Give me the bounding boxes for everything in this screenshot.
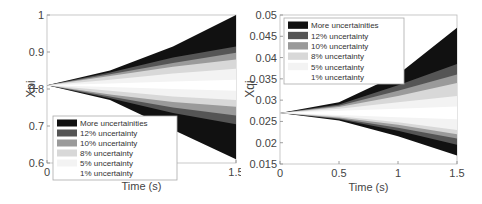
legend-label: 12% uncertainty [311, 32, 368, 41]
legend-swatch [57, 130, 77, 137]
legend-swatch [57, 150, 77, 157]
x-tick-label: 0 [277, 167, 283, 179]
legend-swatch [288, 32, 308, 39]
legend-swatch [288, 73, 308, 80]
legend-label: 8% uncertainty [311, 52, 364, 61]
legend-label: 12% uncertainty [80, 129, 137, 138]
x-tick-label: 0 [44, 166, 50, 178]
y-tick-label: 0.05 [256, 9, 277, 21]
legend-label: 10% uncertainty [80, 139, 137, 148]
legend-swatch [288, 63, 308, 70]
y-tick-label: 0.03 [256, 94, 277, 106]
legend-swatch [288, 42, 308, 49]
legend-swatch [57, 160, 77, 167]
y-tick-label: 0.7 [29, 120, 44, 132]
right-chart: 00.511.50.0150.020.0250.030.0350.040.045… [241, 0, 482, 204]
legend-label: 8% uncertainty [80, 149, 133, 158]
left-chart: 011.50.60.70.80.91Time (s)XpiMore uncert… [0, 0, 241, 204]
x-tick-label: 1 [395, 167, 401, 179]
legend-swatch [288, 53, 308, 60]
x-tick-label: 0.5 [331, 167, 346, 179]
x-axis-label: Time (s) [122, 180, 162, 192]
x-axis-label: Time (s) [349, 181, 389, 193]
legend-label: 5% uncertainty [311, 63, 364, 72]
y-tick-label: 0.02 [256, 137, 277, 149]
y-tick-label: 0.6 [29, 157, 44, 169]
y-tick-label: 0.045 [249, 30, 277, 42]
y-tick-label: 0.015 [249, 158, 277, 170]
legend-label: 1% uncertainty [80, 169, 133, 178]
x-tick-label: 1.5 [449, 167, 464, 179]
legend-label: 5% uncertainty [80, 159, 133, 168]
y-tick-label: 0.025 [249, 115, 277, 127]
y-tick-label: 0.04 [256, 52, 277, 64]
legend-swatch [57, 140, 77, 147]
legend-swatch [288, 22, 308, 29]
legend-label: More uncertainities [311, 21, 379, 30]
x-tick-label: 1.5 [228, 166, 241, 178]
y-axis-label: Xqi [243, 80, 257, 97]
y-tick-label: 1 [38, 9, 44, 21]
legend: More uncertainities12% uncertainty10% un… [284, 18, 404, 84]
legend-swatch [57, 120, 77, 127]
legend-label: 10% uncertainty [311, 42, 368, 51]
legend-label: More uncertainities [80, 119, 148, 128]
legend-swatch [57, 170, 77, 177]
legend: More uncertainities12% uncertainty10% un… [53, 116, 177, 180]
y-axis-label: Xpi [24, 80, 38, 97]
legend-label: 1% uncertainty [311, 73, 364, 82]
y-tick-label: 0.9 [29, 46, 44, 58]
